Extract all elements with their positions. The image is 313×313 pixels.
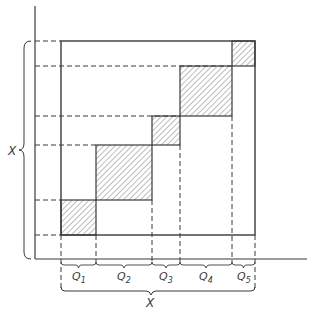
hatched-blocks <box>61 41 255 235</box>
label-q1: Q1 <box>72 270 86 285</box>
segment-braces <box>61 262 255 268</box>
block-q3 <box>152 116 180 145</box>
block-q4 <box>180 66 232 116</box>
label-q4: Q4 <box>199 270 213 285</box>
vertical-x-label: X <box>7 144 17 158</box>
block-q5 <box>232 41 255 66</box>
block-q1 <box>61 200 96 235</box>
label-q2: Q2 <box>117 270 131 285</box>
horizontal-x-label: X <box>145 296 155 310</box>
segment-labels: Q1 Q2 Q3 Q4 Q5 <box>72 270 251 285</box>
label-q3: Q3 <box>159 270 173 285</box>
diagram-svg: X Q1 Q2 Q3 Q4 Q5 X <box>0 0 313 313</box>
vertical-brace <box>19 41 31 259</box>
horizontal-brace <box>61 287 255 295</box>
block-q2 <box>96 145 152 200</box>
diagram-canvas: X Q1 Q2 Q3 Q4 Q5 X <box>0 0 313 313</box>
label-q5: Q5 <box>237 270 251 285</box>
